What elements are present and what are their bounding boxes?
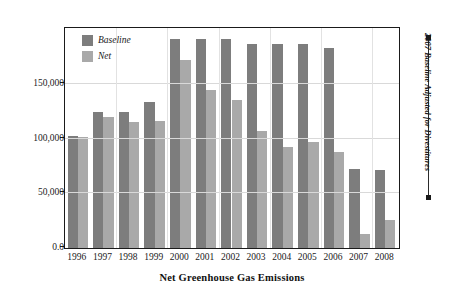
gridline-horizontal [65,83,399,84]
gridline-vertical [219,28,220,248]
bar-net-2008 [385,220,395,248]
bar-baseline-2008 [375,170,385,248]
x-tick-label-2001: 2001 [192,251,218,263]
x-axis: 1996199719981999200020012002200320042005… [64,251,400,267]
x-tick-label-1998: 1998 [115,251,141,263]
x-tick-label-2003: 2003 [243,251,269,263]
bar-net-2000 [180,60,190,248]
bar-net-1999 [155,121,165,248]
y-axis: 0.050,000100,000150,000 [0,27,64,249]
y-tick-label: 50,000 [6,187,64,197]
bar-net-2004 [283,147,293,248]
bar-net-2002 [232,100,242,248]
bar-baseline-1998 [119,112,129,248]
x-tick-label-1999: 1999 [141,251,167,263]
y-tick-label: 100,000 [6,133,64,143]
gridline-horizontal [65,192,399,193]
bar-net-1997 [103,117,113,248]
x-tick-label-2008: 2008 [371,251,397,263]
bar-net-1998 [129,122,139,248]
bar-baseline-2001 [196,39,206,248]
greenhouse-gas-bar-chart: 0.050,000100,000150,000 1996199719981999… [0,0,468,298]
bar-baseline-2007 [349,169,359,248]
bar-baseline-2006 [324,48,334,248]
x-tick-label-2004: 2004 [269,251,295,263]
bar-baseline-1997 [93,112,103,248]
bar-baseline-2005 [298,44,308,248]
legend-swatch-net [82,51,93,62]
bar-baseline-2004 [272,44,282,248]
annotation-text: 2007 Baseline Adjusted for Divestitures [421,33,434,201]
legend-label-net: Net [98,51,111,61]
bar-net-2007 [360,234,370,248]
gridline-vertical [372,28,373,248]
legend-label-baseline: Baseline [98,35,131,45]
legend-item-net: Net [82,49,174,63]
x-tick-label-2000: 2000 [166,251,192,263]
y-tick-label: 0.0 [6,242,64,252]
gridline-vertical [321,28,322,248]
bar-net-2006 [334,152,344,248]
x-tick-label-2002: 2002 [218,251,244,263]
y-tick-label: 150,000 [6,78,64,88]
divestiture-annotation: 2007 Baseline Adjusted for Divestitures [404,33,464,201]
chart-title: Net Greenhouse Gas Emissions [64,272,400,283]
bar-baseline-2002 [221,39,231,248]
bar-net-2003 [257,131,267,248]
gridline-vertical [270,28,271,248]
x-tick-label-1996: 1996 [64,251,90,263]
x-tick-label-2005: 2005 [295,251,321,263]
bar-net-2005 [308,142,318,248]
gridline-horizontal [65,138,399,139]
bar-baseline-1999 [144,102,154,248]
x-tick-label-2006: 2006 [320,251,346,263]
legend-item-baseline: Baseline [82,33,174,47]
legend-swatch-baseline [82,35,93,46]
bar-baseline-2003 [247,44,257,248]
x-tick-label-2007: 2007 [346,251,372,263]
bar-baseline-2000 [170,39,180,248]
chart-legend: Baseline Net [82,33,174,65]
x-tick-label-1997: 1997 [90,251,116,263]
bar-net-2001 [206,90,216,248]
